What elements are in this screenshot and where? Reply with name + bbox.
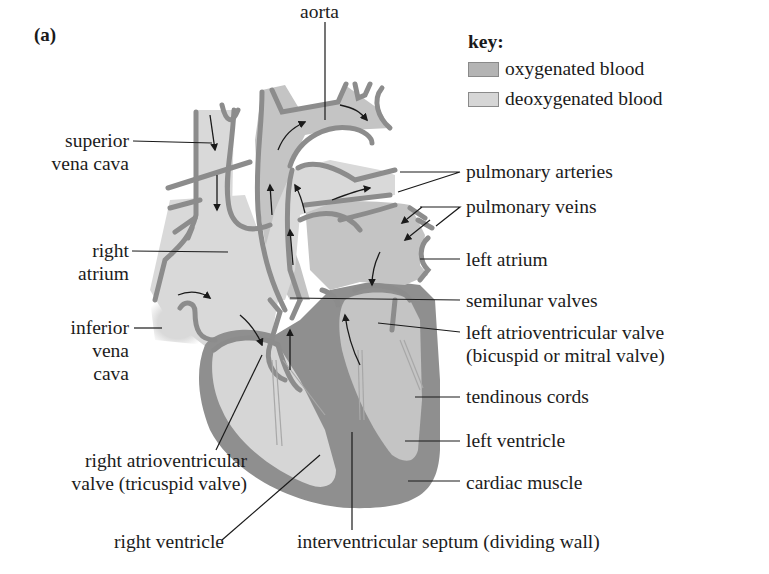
heart-diagram-figure: (a) key: oxygenated blood deoxygenated b…: [0, 0, 769, 574]
label-aorta: aorta: [300, 0, 339, 23]
label-right-ventricle: right ventricle: [114, 530, 224, 553]
label-line: left atrioventricular valve: [466, 321, 665, 344]
label-right-av-valve: right atrioventricular valve (tricuspid …: [72, 449, 247, 495]
legend-label: oxygenated blood: [505, 58, 644, 80]
label-line: atrium: [78, 262, 129, 285]
deoxygenated-swatch-icon: [468, 92, 499, 107]
panel-label: (a): [34, 24, 56, 46]
legend-title: key:: [468, 30, 663, 54]
label-line: inferior: [71, 316, 129, 339]
legend: key: oxygenated blood deoxygenated blood: [468, 30, 663, 114]
label-line: superior: [52, 129, 129, 152]
label-left-ventricle: left ventricle: [466, 429, 565, 452]
label-line: (bicuspid or mitral valve): [466, 344, 665, 367]
label-interventricular-septum: interventricular septum (dividing wall): [297, 530, 600, 553]
label-semilunar-valves: semilunar valves: [466, 289, 598, 312]
label-line: vena cava: [52, 152, 129, 175]
legend-item-deoxygenated: deoxygenated blood: [468, 84, 663, 114]
label-right-atrium: right atrium: [78, 239, 129, 285]
label-pulmonary-veins: pulmonary veins: [466, 195, 597, 218]
label-left-atrium: left atrium: [466, 248, 548, 271]
label-line: cava: [71, 362, 129, 385]
legend-label: deoxygenated blood: [505, 88, 663, 110]
label-line: valve (tricuspid valve): [72, 472, 247, 495]
label-inferior-vena-cava: inferior vena cava: [71, 316, 129, 385]
label-cardiac-muscle: cardiac muscle: [466, 471, 582, 494]
legend-item-oxygenated: oxygenated blood: [468, 54, 663, 84]
label-superior-vena-cava: superior vena cava: [52, 129, 129, 175]
label-left-av-valve: left atrioventricular valve (bicuspid or…: [466, 321, 665, 367]
oxygenated-swatch-icon: [468, 62, 499, 77]
label-line: right atrioventricular: [72, 449, 247, 472]
label-line: right: [78, 239, 129, 262]
label-line: vena: [71, 339, 129, 362]
label-tendinous-cords: tendinous cords: [466, 385, 589, 408]
label-pulmonary-arteries: pulmonary arteries: [466, 160, 613, 183]
